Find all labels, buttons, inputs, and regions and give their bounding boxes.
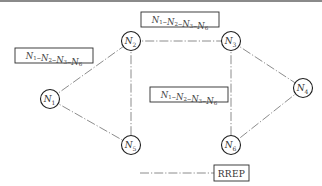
node-n1: N1	[41, 90, 60, 109]
node-n6: N6	[222, 136, 241, 155]
route-label-path-middle: N1–N2–N3–N6	[150, 87, 228, 106]
node-n3: N3	[222, 32, 241, 51]
edge-n3-n4	[231, 41, 303, 88]
edge-n4-n6	[231, 88, 303, 145]
edge-n1-n5	[50, 99, 131, 145]
legend-label: RREP	[218, 169, 245, 179]
route-label-path-left: N1–N2–N3–N6	[15, 48, 93, 67]
legend: RREP	[140, 165, 249, 181]
node-n5: N5	[122, 136, 141, 155]
network-routing-diagram: N1–N2–N3–N6N1–N2–N3–N6N1–N2–N3–N6 N1N2N3…	[0, 0, 322, 186]
route-label-path-top: N1–N2–N3–N6	[141, 12, 219, 31]
node-n2: N2	[122, 32, 141, 51]
node-n4: N4	[294, 79, 313, 98]
